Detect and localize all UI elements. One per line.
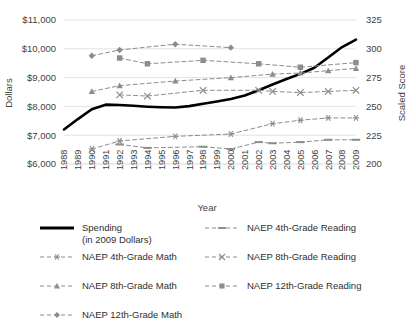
y-tick-label-left: $9,000 bbox=[27, 72, 56, 83]
x-tick-label-2008: 2008 bbox=[337, 150, 347, 170]
marker-square bbox=[145, 61, 150, 66]
legend-label-naep-4th-reading: NAEP 4th-Grade Reading bbox=[247, 222, 356, 233]
y-tick-label-left: $10,000 bbox=[22, 43, 56, 54]
legend-sublabel-spending: (in 2009 Dollars) bbox=[82, 234, 152, 245]
x-tick-label-1990: 1990 bbox=[87, 150, 97, 170]
x-tick-label-2005: 2005 bbox=[296, 150, 306, 170]
marker-square bbox=[219, 283, 224, 288]
legend-label-naep-8th-reading: NAEP 8th-Grade Reading bbox=[247, 251, 356, 262]
x-tick-label-2009: 2009 bbox=[351, 150, 361, 170]
x-tick-label-1997: 1997 bbox=[185, 150, 195, 170]
x-tick-label-1998: 1998 bbox=[198, 150, 208, 170]
marker-square bbox=[200, 58, 205, 63]
x-tick-label-1994: 1994 bbox=[143, 150, 153, 170]
marker-square bbox=[353, 60, 358, 65]
x-tick-label-2004: 2004 bbox=[282, 150, 292, 170]
y-tick-label-right: 325 bbox=[366, 14, 382, 25]
legend-label-naep-4th-math: NAEP 4th-Grade Math bbox=[82, 251, 177, 262]
x-tick-label-1995: 1995 bbox=[157, 150, 167, 170]
legend-label-naep-12th-reading: NAEP 12th-Grade Reading bbox=[247, 280, 361, 291]
x-tick-label-2006: 2006 bbox=[310, 150, 320, 170]
x-tick-label-1988: 1988 bbox=[59, 150, 69, 170]
y-tick-label-right: 300 bbox=[366, 43, 382, 54]
marker-square bbox=[256, 61, 261, 66]
y-tick-label-right: 275 bbox=[366, 72, 382, 83]
x-tick-label-2002: 2002 bbox=[254, 150, 264, 170]
y-tick-label-right: 250 bbox=[366, 101, 382, 112]
marker-square bbox=[117, 55, 122, 60]
y-tick-label-left: $11,000 bbox=[22, 14, 56, 25]
x-tick-label-2003: 2003 bbox=[268, 150, 278, 170]
chart-figure: $6,000$7,000$8,000$9,000$10,000$11,000 2… bbox=[0, 0, 416, 322]
y-tick-label-right: 200 bbox=[366, 158, 382, 169]
legend-label-spending: Spending bbox=[82, 222, 122, 233]
x-tick-label-2000: 2000 bbox=[226, 150, 236, 170]
x-tick-label-1999: 1999 bbox=[212, 150, 222, 170]
y-tick-label-left: $6,000 bbox=[27, 158, 56, 169]
legend-label-naep-8th-math: NAEP 8th-Grade Math bbox=[82, 280, 177, 291]
x-tick-label-1996: 1996 bbox=[171, 150, 181, 170]
y-tick-label-left: $7,000 bbox=[27, 130, 56, 141]
x-tick-label-2001: 2001 bbox=[240, 150, 250, 170]
y-tick-label-right: 225 bbox=[366, 130, 382, 141]
x-tick-label-1991: 1991 bbox=[101, 150, 111, 170]
marker-square bbox=[298, 65, 303, 70]
legend-label-naep-12th-math: NAEP 12th-Grade Math bbox=[82, 309, 182, 320]
education-spending-naep-scores-chart: $6,000$7,000$8,000$9,000$10,000$11,000 2… bbox=[0, 0, 416, 322]
y-axis-right-title: Scaled Score bbox=[396, 65, 407, 122]
x-axis-title: Year bbox=[197, 202, 216, 213]
x-tick-label-1993: 1993 bbox=[129, 150, 139, 170]
y-axis-left-title: Dollars bbox=[3, 78, 14, 108]
y-tick-label-left: $8,000 bbox=[27, 101, 56, 112]
x-tick-label-1989: 1989 bbox=[73, 150, 83, 170]
x-tick-label-2007: 2007 bbox=[324, 150, 334, 170]
x-tick-label-1992: 1992 bbox=[115, 150, 125, 170]
